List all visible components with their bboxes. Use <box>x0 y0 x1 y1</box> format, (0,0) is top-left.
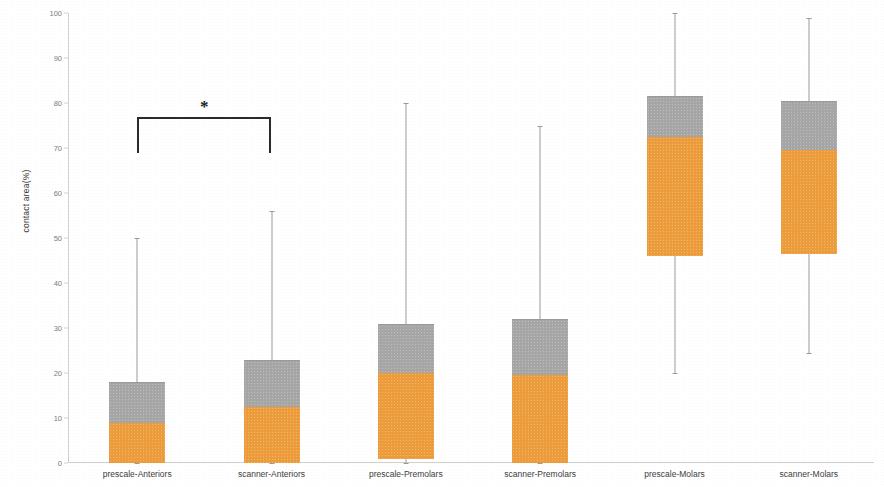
y-tick-label: 10 <box>34 414 62 423</box>
whisker-cap-upper <box>403 103 408 104</box>
y-tick-mark <box>64 103 68 104</box>
y-tick-mark <box>64 13 68 14</box>
box-upper-quartile <box>512 319 568 376</box>
y-tick-label: 60 <box>34 189 62 198</box>
box-plot-chart: contact area(%) 0102030405060708090100 p… <box>0 0 884 487</box>
y-tick-mark <box>64 328 68 329</box>
box-texture <box>647 97 703 138</box>
y-axis-title: contact area(%) <box>21 141 31 261</box>
box-texture <box>781 150 837 254</box>
y-tick-mark <box>64 58 68 59</box>
y-tick-mark <box>64 373 68 374</box>
x-axis-label-5: prescale-Molars <box>607 469 741 479</box>
y-tick-mark <box>64 238 68 239</box>
y-tick-label: 80 <box>34 99 62 108</box>
box-upper-quartile <box>781 101 837 152</box>
box-texture <box>647 137 703 256</box>
box-texture <box>109 423 165 464</box>
y-tick-label: 90 <box>34 54 62 63</box>
y-tick-label: 40 <box>34 279 62 288</box>
box-texture <box>512 320 568 376</box>
whisker-cap-upper <box>269 211 274 212</box>
whisker-cap-upper <box>135 238 140 239</box>
box-lower-quartile <box>244 407 300 463</box>
y-tick-mark <box>64 463 68 464</box>
x-axis-label-1: prescale-Anteriors <box>70 469 204 479</box>
significance-asterisk: * <box>137 100 271 114</box>
y-tick-label: 0 <box>34 459 62 468</box>
box-plot-5[interactable] <box>647 13 703 463</box>
y-tick-mark <box>64 148 68 149</box>
box-texture <box>244 407 300 463</box>
box-texture <box>512 375 568 463</box>
x-axis-line <box>68 462 874 463</box>
box-plot-6[interactable] <box>781 13 837 463</box>
whisker-cap-lower <box>538 463 543 464</box>
whisker-cap-upper <box>538 126 543 127</box>
significance-bracket-leg-left <box>137 117 139 153</box>
significance-bracket-bar <box>137 117 271 119</box>
y-tick-label: 70 <box>34 144 62 153</box>
box-upper-quartile <box>109 382 165 424</box>
box-lower-quartile <box>781 150 837 254</box>
y-tick-label: 20 <box>34 369 62 378</box>
box-plot-4[interactable] <box>512 13 568 463</box>
box-lower-quartile <box>378 373 434 459</box>
y-axis-line <box>68 13 69 463</box>
box-lower-quartile <box>109 423 165 464</box>
box-plot-1[interactable] <box>109 13 165 463</box>
significance-bracket-leg-right <box>269 117 271 153</box>
box-plot-2[interactable] <box>244 13 300 463</box>
y-tick-mark <box>64 283 68 284</box>
whisker-cap-lower <box>135 463 140 464</box>
significance-bracket: * <box>137 117 271 153</box>
whisker-cap-lower <box>403 463 408 464</box>
box-plot-3[interactable] <box>378 13 434 463</box>
box-texture <box>244 361 300 408</box>
y-tick-mark <box>64 193 68 194</box>
y-tick-mark <box>64 418 68 419</box>
box-texture <box>378 373 434 459</box>
box-upper-quartile <box>378 324 434 375</box>
x-axis-label-4: scanner-Premolars <box>473 469 607 479</box>
whisker-cap-lower <box>269 463 274 464</box>
whisker-cap-upper <box>672 13 677 14</box>
whisker-cap-lower <box>806 353 811 354</box>
box-lower-quartile <box>512 375 568 463</box>
x-axis-label-2: scanner-Anteriors <box>204 469 338 479</box>
box-texture <box>781 102 837 152</box>
whisker-cap-lower <box>672 373 677 374</box>
x-axis-label-6: scanner-Molars <box>742 469 876 479</box>
box-upper-quartile <box>647 96 703 138</box>
x-axis-label-3: prescale-Premolars <box>339 469 473 479</box>
box-texture <box>109 383 165 424</box>
box-lower-quartile <box>647 137 703 256</box>
plot-area: 0102030405060708090100 prescale-Anterior… <box>68 13 874 463</box>
box-texture <box>378 325 434 375</box>
y-tick-label: 50 <box>34 234 62 243</box>
y-tick-label: 30 <box>34 324 62 333</box>
box-upper-quartile <box>244 360 300 408</box>
whisker-cap-upper <box>806 18 811 19</box>
y-tick-label: 100 <box>34 9 62 18</box>
